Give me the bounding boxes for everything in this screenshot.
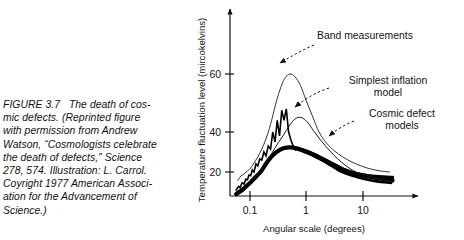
- x-tick-label-0.1: 0.1: [243, 205, 258, 216]
- x-axis-title: Angular scale (degrees): [263, 223, 365, 234]
- y-tick-label-60: 60: [209, 69, 221, 80]
- caption-line: with permission from Andrew: [3, 124, 193, 137]
- leader-line-band-measurements: [280, 45, 314, 63]
- chart-figure: 20 40 60 0.1 1 10 Angular scale (degrees…: [196, 0, 464, 240]
- y-tick-label-40: 40: [209, 127, 221, 138]
- caption-line: Coyright 1977 American Associ-: [3, 177, 193, 190]
- annotation-simplest-inflation-model-line2: model: [374, 87, 402, 98]
- x-tick-label-1: 1: [303, 205, 309, 216]
- leader-line-simplest-inflation-model: [295, 88, 329, 107]
- caption-line: mic defects. (Reprinted figure: [3, 111, 193, 124]
- annotation-cosmic-defect-models-line2: models: [385, 120, 419, 131]
- series-band-measurements-envelope: [238, 74, 390, 180]
- annotation-simplest-inflation-model: Simplest inflation: [349, 75, 428, 86]
- chart-svg: 20 40 60 0.1 1 10 Angular scale (degrees…: [196, 0, 464, 240]
- y-tick-label-20: 20: [209, 167, 221, 178]
- annotation-band-measurements: Band measurements: [317, 30, 413, 41]
- caption-line: ation for the Advancement of: [3, 190, 193, 203]
- chart-series-group: [236, 74, 393, 194]
- annotation-cosmic-defect-models: Cosmic defect: [369, 108, 435, 119]
- caption-line: Watson, “Cosmologists celebrate: [3, 138, 193, 151]
- y-axis-title: Temperature fluctuation level (mircokelv…: [196, 18, 207, 202]
- figure-caption: FIGURE 3.7 The death of cos- mic defects…: [3, 98, 193, 217]
- leader-line-cosmic-defect-models: [329, 121, 354, 136]
- chart-annotations: Band measurements Simplest inflation mod…: [280, 30, 435, 136]
- caption-line: 278, 574. Illustration: L. Carrol.: [3, 164, 193, 177]
- caption-line: FIGURE 3.7 The death of cos-: [3, 98, 193, 111]
- chart-tick-labels: 20 40 60 0.1 1 10: [209, 69, 369, 216]
- caption-line: the death of defects,” Science: [3, 151, 193, 164]
- figure-page: FIGURE 3.7 The death of cos- mic defects…: [0, 0, 464, 240]
- caption-line: Science.): [3, 204, 193, 217]
- x-tick-label-10: 10: [357, 205, 369, 216]
